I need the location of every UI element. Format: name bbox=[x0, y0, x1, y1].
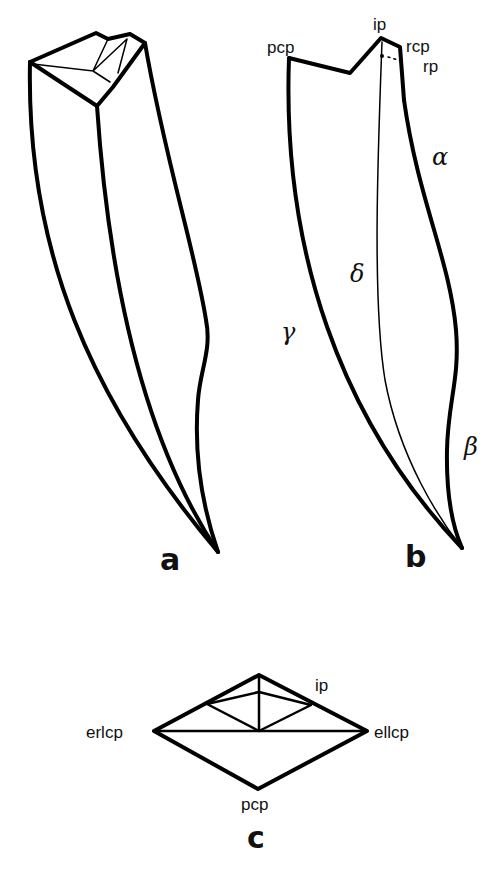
panel-c-drawing bbox=[154, 675, 367, 789]
panel-label-a: a bbox=[160, 542, 180, 577]
label-ellcp: ellcp bbox=[374, 723, 409, 742]
label-rp: rp bbox=[423, 57, 438, 76]
label-delta: δ bbox=[350, 260, 364, 288]
label-alpha: α bbox=[432, 143, 448, 171]
label-ip: ip bbox=[373, 15, 386, 34]
panel-a-drawing bbox=[30, 33, 218, 552]
figure-canvas: a pcp ip rcp rp α δ γ β b ip erlcp ellcp… bbox=[0, 0, 499, 877]
label-gamma: γ bbox=[281, 318, 296, 346]
label-c-pcp: pcp bbox=[241, 795, 268, 814]
label-erlcp: erlcp bbox=[86, 723, 123, 742]
panel-b-drawing bbox=[288, 38, 462, 548]
label-pcp: pcp bbox=[267, 38, 294, 57]
label-c-ip: ip bbox=[315, 676, 328, 695]
label-beta: β bbox=[463, 433, 478, 461]
panel-label-c: c bbox=[247, 820, 265, 855]
panel-label-b: b bbox=[405, 539, 426, 574]
label-rcp: rcp bbox=[406, 37, 430, 56]
